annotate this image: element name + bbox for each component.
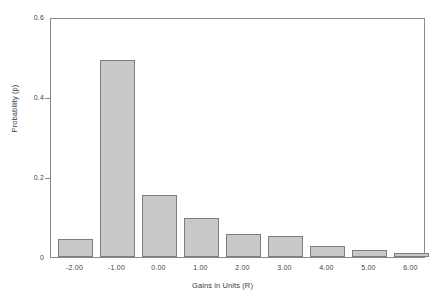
bar xyxy=(310,246,345,257)
x-tick-label: 5.00 xyxy=(347,264,391,271)
bar xyxy=(268,236,303,257)
x-tick-label: -1.00 xyxy=(95,264,139,271)
x-axis-label: Gains in Units (R) xyxy=(0,281,445,290)
bar xyxy=(100,60,135,257)
y-tick-label-0-6: 0.6 xyxy=(4,14,44,21)
x-tick-label: 4.00 xyxy=(305,264,349,271)
bar xyxy=(142,195,177,257)
bar xyxy=(394,253,429,257)
y-tick-label-0-2: 0.2 xyxy=(4,174,44,181)
x-tick-label: 0.00 xyxy=(137,264,181,271)
bar xyxy=(352,250,387,257)
bar xyxy=(184,218,219,257)
x-tick-label: 2.00 xyxy=(221,264,265,271)
bar xyxy=(58,239,93,257)
bar-series xyxy=(51,19,424,257)
bar xyxy=(226,234,261,257)
x-tick-label: 6.00 xyxy=(389,264,433,271)
bar-chart-figure: 0.6 0.4 0.2 0 Probability (p) -2.00-1.00… xyxy=(0,0,445,305)
x-tick-label: 1.00 xyxy=(179,264,223,271)
y-axis-label: Probability (p) xyxy=(10,69,19,149)
x-tick-label: -2.00 xyxy=(53,264,97,271)
y-tick-label-0: 0 xyxy=(4,254,44,261)
plot-area xyxy=(50,18,425,258)
x-tick-label: 3.00 xyxy=(263,264,307,271)
